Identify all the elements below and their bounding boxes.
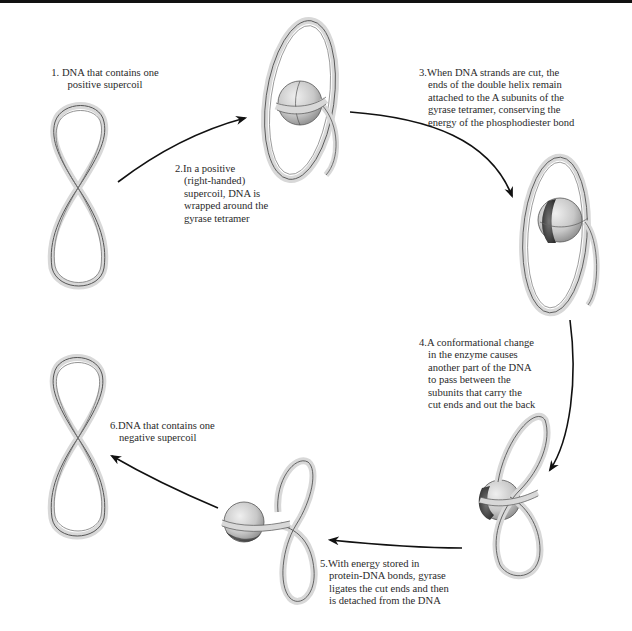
step-5-line-1: 5.With energy stored in (320, 558, 490, 570)
step-2-line-1: 2.In a positive (175, 163, 295, 175)
step-4-line-1: 4.A conformational change (419, 337, 579, 349)
step-4-line-6: cut ends and out the back (419, 399, 579, 411)
step-3-line-5: energy of the phosphodiester bond (419, 117, 632, 129)
step-3-line-1: 3.When DNA strands are cut, the (419, 67, 632, 79)
step-4-line-2: in the enzyme causes (419, 349, 579, 361)
step-5-line-2: protein-DNA bonds, gyrase (320, 570, 490, 582)
dna-ligated-gyrase-illustration (222, 461, 314, 602)
step-1-label: 1. DNA that contains one positive superc… (30, 67, 180, 92)
dna-passing-gyrase-illustration (479, 416, 547, 575)
step-3-line-4: gyrase tetramer, conserving the (419, 104, 632, 116)
step-2-line-4: wrapped around the (175, 200, 295, 212)
step-4-line-4: to pass between the (419, 374, 579, 386)
step-2-line-2: (right-handed) (175, 175, 295, 187)
step-6-line-1: 6.DNA that contains one (110, 420, 240, 432)
step-1-line-1: 1. DNA that contains one (30, 67, 180, 79)
step-6-line-2: negative supercoil (110, 432, 240, 444)
step-2-line-5: gyrase tetramer (175, 213, 295, 225)
step-2-label: 2.In a positive (right-handed) supercoil… (175, 163, 295, 225)
arrow-step4-to-step5 (330, 540, 462, 548)
dna-cut-gyrase-illustration (518, 155, 597, 315)
step-6-label: 6.DNA that contains one negative superco… (110, 420, 240, 445)
step-4-line-5: subunits that carry the (419, 387, 579, 399)
step-4-label: 4.A conformational change in the enzyme … (419, 337, 579, 411)
step-5-label: 5.With energy stored in protein-DNA bond… (320, 558, 490, 608)
step-5-line-3: ligates the cut ends and then (320, 583, 490, 595)
dna-negative-supercoil-illustration (51, 358, 105, 537)
step-1-line-2: positive supercoil (30, 79, 180, 91)
step-3-line-2: ends of the double helix remain (419, 79, 632, 91)
step-3-line-3: attached to the A subunits of the (419, 92, 632, 104)
arrow-step5-to-step6 (112, 456, 218, 508)
step-5-line-4: is detached from the DNA (320, 595, 490, 607)
dna-positive-supercoil-illustration (51, 106, 105, 287)
step-3-label: 3.When DNA strands are cut, the ends of … (419, 67, 632, 129)
dna-wrapped-gyrase-illustration (255, 16, 345, 184)
step-4-line-3: another part of the DNA (419, 362, 579, 374)
step-2-line-3: supercoil, DNA is (175, 188, 295, 200)
